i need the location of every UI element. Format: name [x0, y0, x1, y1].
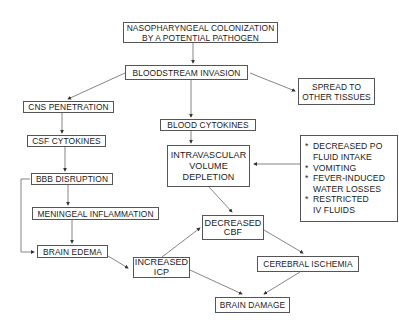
node-brain-edema: BRAIN EDEMA: [37, 245, 108, 258]
node-spread-to-other-tissues: SPREAD TO OTHER TISSUES: [298, 78, 375, 105]
node-csf-cytokines: CSF CYTOKINES: [27, 135, 106, 147]
node-text: MENINGEAL INFLAMMATION: [37, 209, 153, 219]
node-text: BBB DISRUPTION: [36, 174, 108, 184]
cause-text: WATER LOSSES: [313, 184, 381, 195]
node-text: SPREAD TO: [312, 82, 361, 92]
node-brain-damage: BRAIN DAMAGE: [215, 297, 290, 313]
cause-item: *DECREASED PO: [305, 141, 383, 152]
bullet-icon: *: [305, 194, 313, 205]
node-text: BY A POTENTIAL PATHOGEN: [142, 33, 259, 43]
cause-text: VOMITING: [313, 163, 356, 174]
node-volume-depletion-causes: *DECREASED PO FLUID INTAKE *VOMITING *FE…: [300, 135, 398, 222]
node-text: BLOOD CYTOKINES: [167, 120, 248, 130]
cause-text: RESTRICTED: [313, 194, 369, 205]
bullet-icon: *: [305, 163, 313, 174]
node-text: BRAIN EDEMA: [43, 247, 102, 257]
node-text: INTRAVASCULAR: [171, 150, 246, 161]
node-blood-cytokines: BLOOD CYTOKINES: [160, 119, 256, 131]
node-decreased-cbf: DECREASED CBF: [202, 215, 264, 240]
cause-item-cont: WATER LOSSES: [305, 184, 381, 195]
cause-item-cont: FLUID INTAKE: [305, 152, 372, 163]
node-intravascular-volume-depletion: INTRAVASCULAR VOLUME DEPLETION: [167, 145, 250, 187]
node-text: DEPLETION: [183, 172, 235, 183]
cause-text: FLUID INTAKE: [313, 152, 372, 163]
cause-text: FEVER-INDUCED: [313, 173, 385, 184]
node-nasopharyngeal-colonization: NASOPHARYNGEAL COLONIZATION BY A POTENTI…: [123, 22, 278, 43]
cause-item: *VOMITING: [305, 163, 356, 174]
node-text: VOLUME: [189, 161, 228, 172]
node-text: CSF CYTOKINES: [32, 136, 101, 146]
node-meningeal-inflammation: MENINGEAL INFLAMMATION: [32, 207, 159, 220]
node-cerebral-ischemia: CEREBRAL ISCHEMIA: [257, 256, 359, 272]
node-bloodstream-invasion: BLOODSTREAM INVASION: [125, 65, 248, 80]
node-cns-penetration: CNS PENETRATION: [23, 101, 114, 113]
node-increased-icp: INCREASED ICP: [133, 257, 190, 278]
cause-item: *RESTRICTED: [305, 194, 369, 205]
node-text: CEREBRAL ISCHEMIA: [263, 259, 352, 269]
node-text: BRAIN DAMAGE: [220, 300, 285, 310]
bullet-icon: *: [305, 173, 313, 184]
node-text: OTHER TISSUES: [302, 92, 371, 102]
bullet-icon: *: [305, 141, 313, 152]
node-text: CNS PENETRATION: [28, 102, 108, 112]
node-text: ICP: [154, 268, 169, 278]
cause-text: DECREASED PO: [313, 141, 383, 152]
node-bbb-disruption: BBB DISRUPTION: [31, 173, 113, 185]
cause-item: *FEVER-INDUCED: [305, 173, 385, 184]
cause-item-cont: IV FLUIDS: [305, 205, 355, 216]
node-text: CBF: [224, 228, 242, 237]
cause-text: IV FLUIDS: [313, 205, 355, 216]
node-text: BLOODSTREAM INVASION: [133, 68, 241, 78]
node-text: NASOPHARYNGEAL COLONIZATION: [127, 23, 275, 33]
